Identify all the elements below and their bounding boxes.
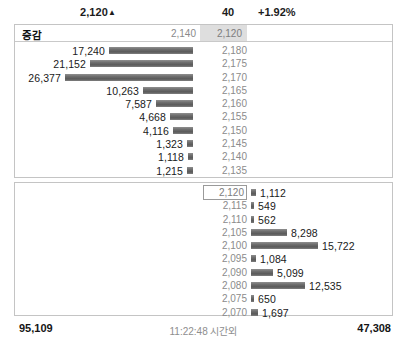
ask-row[interactable]: 21,1522,175 <box>15 57 392 70</box>
bid-volume-bar <box>251 216 254 223</box>
ask-price: 2,155 <box>205 111 247 122</box>
ask-volume-bar <box>156 100 193 107</box>
ask-volume-bar <box>173 127 193 134</box>
bid-volume-bar <box>251 269 273 276</box>
bid-row[interactable]: 2,075650 <box>15 292 392 305</box>
bid-volume-bar <box>251 255 256 262</box>
header-label-change: 증감 <box>22 27 42 42</box>
bid-volume: 15,722 <box>322 240 355 252</box>
bid-row[interactable]: 2,0951,084 <box>15 252 392 265</box>
bid-price: 2,080 <box>205 280 247 291</box>
bid-volume-bar <box>251 242 318 249</box>
price-change-percent: +1.92% <box>258 6 296 18</box>
orderbook-footer: 95,109 11:22:48 시간외 47,308 <box>14 322 393 338</box>
ask-row[interactable]: 26,3772,170 <box>15 71 392 84</box>
ask-row[interactable]: 17,2402,180 <box>15 44 392 57</box>
bid-volume-bar <box>251 309 258 316</box>
ask-volume-bar <box>109 47 193 54</box>
bid-row[interactable]: 2,110562 <box>15 213 392 226</box>
ask-row-list: 17,2402,18021,1522,17526,3772,17010,2632… <box>15 42 392 177</box>
ask-row[interactable]: 1,1182,140 <box>15 150 392 163</box>
ask-price: 2,140 <box>205 151 247 162</box>
bid-volume-bar <box>251 282 305 289</box>
price-change: 40 <box>222 6 234 18</box>
ask-volume: 7,587 <box>15 98 152 110</box>
ask-price: 2,150 <box>205 125 247 136</box>
ask-volume-bar <box>188 153 193 160</box>
ask-price: 2,145 <box>205 138 247 149</box>
ask-volume-bar <box>65 74 193 81</box>
bid-row[interactable]: 2,1201,112 <box>15 186 392 199</box>
bid-row[interactable]: 2,10015,722 <box>15 239 392 252</box>
bid-volume: 12,535 <box>309 280 342 292</box>
bid-volume: 650 <box>258 293 276 305</box>
bid-volume-bar <box>251 202 254 209</box>
orderbook-widget: 2,120▲ 40 +1.92% 증감 2,140 2,120 17,2402,… <box>0 0 408 353</box>
ask-volume: 21,152 <box>15 58 86 70</box>
bid-row[interactable]: 2,08012,535 <box>15 279 392 292</box>
bid-volume: 562 <box>258 214 276 226</box>
quote-strip: 2,120▲ 40 +1.92% <box>14 6 393 22</box>
ask-price: 2,160 <box>205 98 247 109</box>
bid-price: 2,105 <box>205 227 247 238</box>
ask-volume: 4,668 <box>15 111 166 123</box>
up-triangle-icon: ▲ <box>108 8 116 17</box>
bid-volume: 549 <box>258 200 276 212</box>
bid-volume: 8,298 <box>291 227 318 239</box>
session-time-label: 11:22:48 시간외 <box>14 323 393 338</box>
bid-row[interactable]: 2,0701,697 <box>15 306 392 319</box>
header-prev-price: 2,140 <box>152 28 196 39</box>
ask-volume: 10,263 <box>15 85 139 97</box>
ask-volume-bar <box>143 87 193 94</box>
bid-panel: 2,1201,1122,1155492,1105622,1058,2982,10… <box>14 182 393 316</box>
bid-price-selected: 2,120 <box>203 185 247 200</box>
total-bid-volume: 47,308 <box>357 322 391 334</box>
ask-volume: 1,215 <box>15 165 183 177</box>
bid-volume-bar <box>251 189 256 196</box>
current-price: 2,120▲ <box>80 6 116 18</box>
bid-price: 2,090 <box>205 267 247 278</box>
ask-volume-bar <box>187 140 193 147</box>
ask-volume: 17,240 <box>15 45 105 57</box>
bid-volume: 1,084 <box>260 253 287 265</box>
header-current-price: 2,120 <box>200 28 242 39</box>
ask-volume-bar <box>187 167 193 174</box>
ask-volume: 1,118 <box>15 151 184 163</box>
bid-price: 2,075 <box>205 293 247 304</box>
bid-price: 2,070 <box>205 307 247 318</box>
ask-row[interactable]: 7,5872,160 <box>15 97 392 110</box>
bid-volume: 5,099 <box>277 267 304 279</box>
bid-price: 2,095 <box>205 253 247 264</box>
bid-volume-bar <box>251 229 287 236</box>
bid-row[interactable]: 2,1058,298 <box>15 226 392 239</box>
ask-price: 2,175 <box>205 58 247 69</box>
ask-price: 2,180 <box>205 45 247 56</box>
bid-row[interactable]: 2,0905,099 <box>15 266 392 279</box>
ask-panel: 증감 2,140 2,120 17,2402,18021,1522,17526,… <box>14 24 393 178</box>
bid-volume: 1,697 <box>262 307 289 319</box>
ask-volume-bar <box>170 113 193 120</box>
bid-volume: 1,112 <box>260 187 286 199</box>
ask-volume: 1,323 <box>15 138 183 150</box>
bid-price: 2,110 <box>205 214 247 225</box>
ask-row[interactable]: 1,3232,145 <box>15 137 392 150</box>
bid-volume-bar <box>251 295 254 302</box>
ask-volume: 4,116 <box>15 125 169 137</box>
ask-volume-bar <box>90 60 193 67</box>
ask-row[interactable]: 10,2632,165 <box>15 84 392 97</box>
ask-row[interactable]: 4,1162,150 <box>15 124 392 137</box>
current-price-value: 2,120 <box>80 6 108 18</box>
bid-row-list: 2,1201,1122,1155492,1105622,1058,2982,10… <box>15 183 392 319</box>
orderbook-header-row: 증감 2,140 2,120 <box>15 25 392 42</box>
bid-price: 2,115 <box>205 200 247 211</box>
ask-volume: 26,377 <box>15 72 61 84</box>
header-current-price-highlight: 2,120 <box>200 25 247 41</box>
ask-price: 2,165 <box>205 85 247 96</box>
bid-row[interactable]: 2,115549 <box>15 199 392 212</box>
ask-price: 2,135 <box>205 165 247 176</box>
bid-price: 2,100 <box>205 240 247 251</box>
ask-row[interactable]: 4,6682,155 <box>15 110 392 123</box>
ask-row[interactable]: 1,2152,135 <box>15 164 392 177</box>
ask-price: 2,170 <box>205 72 247 83</box>
